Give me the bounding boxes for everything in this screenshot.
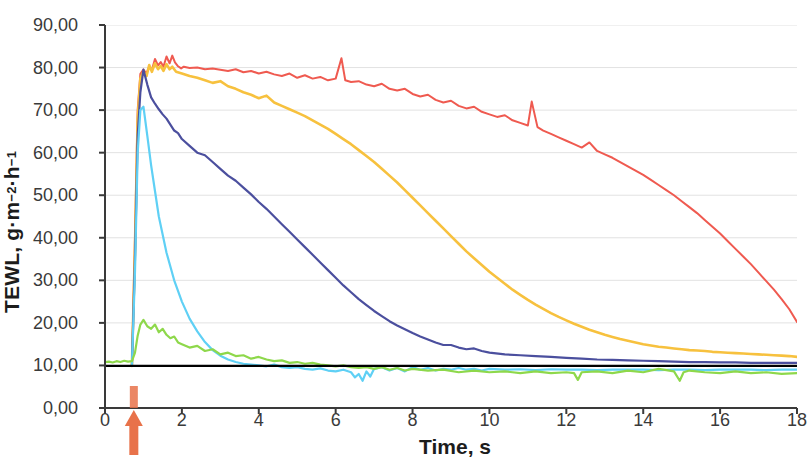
x-tick-label: 10 <box>479 410 499 431</box>
series-red <box>132 56 797 366</box>
plot-svg <box>105 25 797 408</box>
x-tick-label: 18 <box>787 410 807 431</box>
y-tick-label: 10,00 <box>0 355 86 376</box>
x-tick-label: 8 <box>408 410 418 431</box>
x-tick-label: 2 <box>177 410 187 431</box>
chart-container: TEWL, g·m−2·h−1 0,0010,0020,0030,0040,00… <box>0 0 807 464</box>
series-cyan <box>132 107 797 381</box>
y-tick-label: 70,00 <box>0 100 86 121</box>
series-purple <box>132 70 797 366</box>
x-tick-label: 6 <box>331 410 341 431</box>
x-tick-label: 16 <box>710 410 730 431</box>
y-tick-label: 30,00 <box>0 270 86 291</box>
x-tick-label: 12 <box>556 410 576 431</box>
x-tick-label: 4 <box>254 410 264 431</box>
y-tick-label: 0,00 <box>0 398 86 419</box>
y-tick-label: 50,00 <box>0 185 86 206</box>
x-tick-label: 0 <box>100 410 110 431</box>
plot-area <box>105 25 797 408</box>
y-tick-label: 90,00 <box>0 15 86 36</box>
y-axis-label-mid: ·h <box>0 166 24 186</box>
x-tick-label: 14 <box>633 410 653 431</box>
y-axis-label-main: TEWL, g·m <box>0 202 24 313</box>
y-tick-label: 40,00 <box>0 227 86 248</box>
x-axis-label: Time, s <box>105 432 805 462</box>
y-tick-label: 80,00 <box>0 57 86 78</box>
y-tick-label: 60,00 <box>0 142 86 163</box>
y-tick-label: 20,00 <box>0 312 86 333</box>
